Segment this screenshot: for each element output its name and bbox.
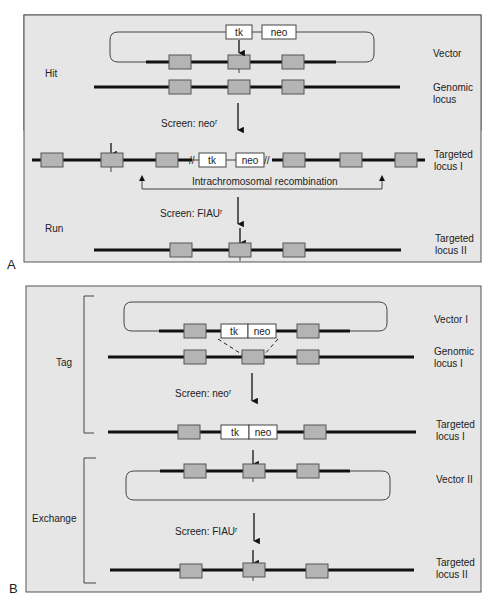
row-label-targeted-1b: locus I [434, 161, 463, 172]
tk-label: tk [235, 27, 244, 38]
exon [184, 350, 206, 364]
row-label-targeted-2b: locus II [435, 245, 467, 256]
exon [304, 425, 326, 439]
row-label-genomic-2: locus [433, 94, 456, 105]
panel-b: Tag tk neo Vector I Genomic locus I Scr [9, 286, 481, 596]
exon [170, 243, 192, 257]
exon [242, 350, 264, 364]
svg-text:tk: tk [231, 427, 240, 438]
panel-a: tk neo Vector Hit Genomic locus Screen: … [7, 15, 481, 272]
exon [180, 564, 202, 578]
row-label-targeted-1: Targeted [436, 419, 475, 430]
exon [41, 153, 63, 167]
gene-targeting-diagram: tk neo Vector Hit Genomic locus Screen: … [0, 0, 492, 608]
exon [229, 243, 251, 257]
exon [297, 350, 319, 364]
stage-label-hit: Hit [45, 68, 57, 79]
row-label-targeted-2: Targeted [435, 233, 474, 244]
row-label-targeted-1: Targeted [434, 149, 473, 160]
row-label-genomic-1b: locus I [434, 358, 463, 369]
recombination-label: Intrachromosomal recombination [192, 176, 338, 187]
exon [395, 153, 417, 167]
exon [283, 153, 305, 167]
exon [282, 55, 304, 69]
screen-neo-label: Screen: neor [175, 388, 232, 400]
stage-label-run: Run [45, 223, 63, 234]
row-label-vector: Vector [433, 48, 462, 59]
screen-fiau-label: Screen: FIAUr [175, 526, 238, 538]
screen-fiau-label: Screen: FIAUr [160, 208, 223, 220]
exon [178, 425, 200, 439]
exon [306, 564, 328, 578]
screen-neo-label: Screen: neor [161, 118, 218, 130]
row-label-targeted-1b: locus I [436, 431, 465, 442]
svg-text:neo: neo [254, 326, 271, 337]
exon [184, 464, 206, 478]
exon [169, 80, 191, 94]
exon [184, 324, 206, 338]
exon [297, 324, 319, 338]
exon [228, 55, 250, 69]
row-label-genomic: Genomic [433, 82, 473, 93]
break-mark: // [189, 155, 195, 166]
panel-letter-b: B [9, 581, 18, 596]
exon [169, 55, 191, 69]
row-label-vector-1: Vector I [434, 314, 468, 325]
stage-label-tag: Tag [56, 357, 72, 368]
exon [228, 80, 250, 94]
panel-a-frame [24, 15, 481, 262]
exon [283, 243, 305, 257]
exon [340, 153, 362, 167]
neo-label: neo [271, 27, 288, 38]
panel-letter-a: A [7, 257, 16, 272]
exon [156, 153, 178, 167]
svg-text:tk: tk [208, 155, 217, 166]
svg-text:neo: neo [255, 427, 272, 438]
row-label-genomic-1: Genomic [434, 346, 474, 357]
exon [297, 464, 319, 478]
svg-text:tk: tk [230, 326, 239, 337]
break-mark: // [264, 155, 270, 166]
exon [243, 563, 265, 577]
exon [282, 80, 304, 94]
exon [243, 464, 265, 478]
exon [101, 153, 123, 167]
row-label-targeted-2b: locus II [436, 569, 468, 580]
stage-label-exchange: Exchange [32, 513, 77, 524]
svg-text:neo: neo [242, 155, 259, 166]
row-label-vector-2: Vector II [436, 474, 473, 485]
row-label-targeted-2: Targeted [436, 557, 475, 568]
